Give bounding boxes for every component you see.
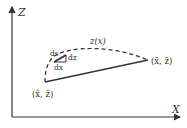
start-point-label: (x̂, ẑ) xyxy=(32,89,53,99)
x-axis-label: X xyxy=(171,103,181,116)
dx-label: dx xyxy=(54,63,64,72)
z-axis-label: Z xyxy=(17,6,26,19)
end-point-label: (x̄, z̄) xyxy=(151,56,172,66)
curve-label: z(x) xyxy=(89,36,106,46)
dz-label: dz xyxy=(68,53,77,62)
ds-label: ds xyxy=(50,49,59,58)
diagram-canvas: Z X ds dz dx z(x) (x̂, ẑ) (x̄, z̄) xyxy=(0,0,187,128)
